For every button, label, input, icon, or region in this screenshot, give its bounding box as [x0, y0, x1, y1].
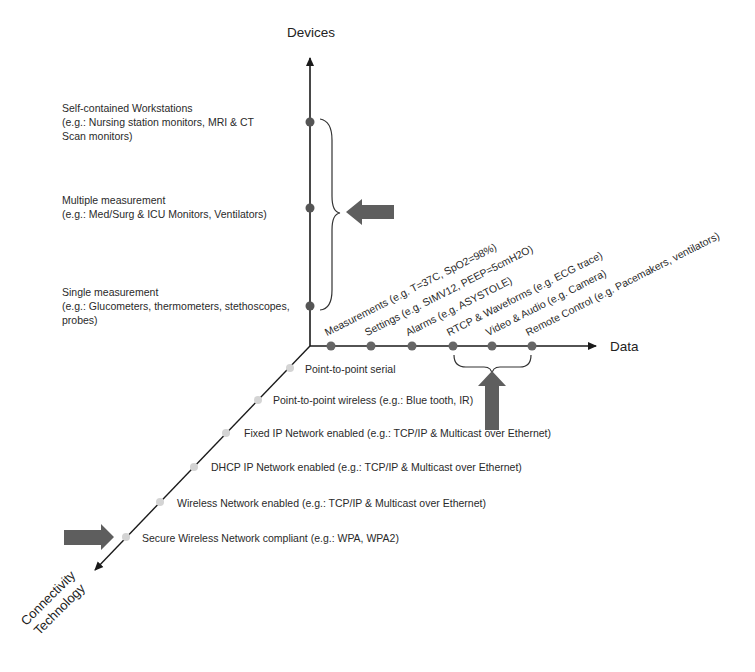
- devices-level-single: Single measurement (e.g.: Glucometers, t…: [62, 285, 290, 327]
- devices-brace: [320, 119, 340, 310]
- data-dot-remote: [528, 342, 537, 351]
- connectivity-dot-fixed-ip: [222, 429, 230, 437]
- devices-level-title: Multiple measurement: [62, 193, 267, 207]
- connectivity-level-p2p-wireless: Point-to-point wireless (e.g.: Blue toot…: [273, 393, 473, 407]
- connectivity-dot-secure-wireless: [122, 533, 130, 541]
- connectivity-capability-diagram: Devices Data Connectivity Technology Sel…: [0, 0, 755, 672]
- data-dot-measurements: [327, 342, 336, 351]
- devices-axis-title: Devices: [287, 25, 335, 40]
- connectivity-level-dhcp: DHCP IP Network enabled (e.g.: TCP/IP & …: [211, 460, 522, 474]
- devices-level-example-cont: Scan monitors): [62, 129, 254, 143]
- connectivity-highlight-arrow-icon: [64, 524, 114, 550]
- connectivity-dot-wireless: [156, 498, 164, 506]
- devices-highlight-arrow-icon: [346, 199, 394, 225]
- devices-level-title: Single measurement: [62, 285, 290, 299]
- data-dot-video: [488, 342, 497, 351]
- data-highlight-arrow-icon: [478, 371, 506, 430]
- connectivity-dot-dhcp: [190, 463, 198, 471]
- devices-dot-multiple: [306, 204, 315, 213]
- data-axis-title: Data: [610, 339, 639, 354]
- data-dot-rtcp: [449, 342, 458, 351]
- devices-level-example: (e.g.: Nursing station monitors, MRI & C…: [62, 115, 254, 129]
- devices-level-workstations: Self-contained Workstations (e.g.: Nursi…: [62, 101, 254, 143]
- data-dot-settings: [367, 342, 376, 351]
- connectivity-level-fixed-ip: Fixed IP Network enabled (e.g.: TCP/IP &…: [244, 426, 551, 440]
- connectivity-level-serial: Point-to-point serial: [305, 362, 395, 376]
- devices-level-multiple: Multiple measurement (e.g.: Med/Surg & I…: [62, 193, 267, 221]
- devices-dot-workstations: [306, 118, 315, 127]
- devices-dot-single: [306, 302, 315, 311]
- data-dot-alarms: [408, 342, 417, 351]
- connectivity-level-secure-wireless: Secure Wireless Network compliant (e.g.:…: [142, 531, 399, 545]
- devices-level-example-cont: probes): [62, 313, 290, 327]
- devices-level-example: (e.g.: Med/Surg & ICU Monitors, Ventilat…: [62, 207, 267, 221]
- connectivity-dot-serial: [286, 364, 294, 372]
- devices-level-example: (e.g.: Glucometers, thermometers, stetho…: [62, 299, 290, 313]
- devices-level-title: Self-contained Workstations: [62, 101, 254, 115]
- connectivity-level-wireless: Wireless Network enabled (e.g.: TCP/IP &…: [177, 496, 486, 510]
- connectivity-dot-p2p-wireless: [254, 396, 262, 404]
